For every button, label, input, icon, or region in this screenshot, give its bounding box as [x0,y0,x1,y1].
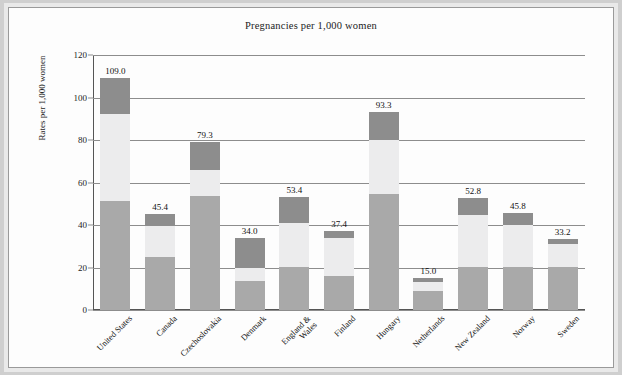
bar-canada[interactable]: 45.4 [145,214,175,310]
bar-segment-segment-top [324,231,354,238]
y-tick-label-100: 100 [74,93,88,103]
bar-value-label: 53.4 [286,185,302,195]
x-tick-label: Czechoslovakia [179,314,223,358]
bar-segment-segment-bottom [145,257,175,310]
bar-segment-segment-middle [235,268,265,282]
bar-value-label: 45.8 [510,201,526,211]
bar-hungary[interactable]: 93.3 [369,112,399,310]
bar-segment-segment-top [503,213,533,226]
bar-value-label: 93.3 [376,100,392,110]
bar-segment-segment-bottom [235,281,265,310]
x-tick-label: Finland [333,314,358,339]
bar-value-label: 45.4 [152,202,168,212]
bar-value-label: 15.0 [421,266,437,276]
screenshot-root: Pregnancies per 1,000 women Rates per 1,… [0,0,622,375]
bar-netherlands[interactable]: 15.0 [413,278,443,310]
gridline-80: 80 [93,140,585,141]
x-tick-label: England & Wales [280,314,319,353]
y-tick-mark-60 [88,182,93,183]
gridline-100: 100 [93,98,585,99]
bar-segment-segment-bottom [190,196,220,310]
bar-segment-segment-middle [145,226,175,257]
bar-segment-segment-middle [548,244,578,267]
y-tick-label-20: 20 [78,263,87,273]
y-tick-mark-120 [88,55,93,56]
bar-segment-segment-middle [413,282,443,291]
bar-segment-segment-bottom [413,291,443,310]
bar-united-states[interactable]: 109.0 [100,78,130,310]
bar-value-label: 109.0 [105,66,125,76]
y-tick-label-120: 120 [74,50,88,60]
bar-segment-segment-bottom [369,194,399,310]
bar-segment-segment-bottom [100,201,130,310]
bar-segment-segment-bottom [458,267,488,310]
bar-denmark[interactable]: 34.0 [235,238,265,310]
bar-segment-segment-top [458,198,488,215]
x-tick-label: Denmark [239,314,268,343]
y-tick-label-40: 40 [78,220,87,230]
gridline-0: 0 [93,310,585,311]
bar-england-wales[interactable]: 53.4 [279,197,309,310]
bar-segment-segment-top [145,214,175,226]
bar-segment-segment-bottom [279,267,309,310]
bar-norway[interactable]: 45.8 [503,213,533,310]
bar-segment-segment-bottom [548,267,578,310]
gridline-120: 120 [93,55,585,56]
y-tick-label-0: 0 [83,305,88,315]
x-tick-label: Sweden [556,314,581,339]
x-tick-label: United States [95,314,134,353]
plot-area: 020406080100120 109.045.479.334.053.437.… [93,55,585,310]
bar-value-label: 33.2 [555,227,571,237]
y-tick-mark-40 [88,225,93,226]
bar-segment-segment-middle [190,170,220,197]
bar-value-label: 79.3 [197,130,213,140]
bar-segment-segment-top [279,197,309,224]
bar-segment-segment-middle [100,114,130,201]
y-tick-mark-0 [88,310,93,311]
y-tick-mark-80 [88,140,93,141]
x-tick-label: Netherlands [411,314,446,349]
y-tick-mark-20 [88,267,93,268]
chart-title: Pregnancies per 1,000 women [9,20,613,31]
y-tick-label-80: 80 [78,135,87,145]
bar-value-label: 34.0 [242,226,258,236]
y-tick-mark-100 [88,97,93,98]
bar-segment-segment-middle [279,223,309,267]
bar-segment-segment-bottom [324,276,354,310]
chart-frame: Pregnancies per 1,000 women Rates per 1,… [8,7,614,368]
bar-segment-segment-middle [458,215,488,267]
bar-segment-segment-middle [369,140,399,194]
bar-new-zealand[interactable]: 52.8 [458,198,488,310]
bar-segment-segment-bottom [503,267,533,310]
bar-value-label: 37.4 [331,219,347,229]
bar-value-label: 52.8 [465,186,481,196]
chart-figure: Pregnancies per 1,000 women Rates per 1,… [9,8,613,367]
bar-segment-segment-middle [503,225,533,266]
bar-segment-segment-top [190,142,220,170]
gridline-60: 60 [93,183,585,184]
bar-segment-segment-middle [324,238,354,277]
bar-czechoslovakia[interactable]: 79.3 [190,142,220,311]
y-tick-label-60: 60 [78,178,87,188]
bar-segment-segment-top [369,112,399,140]
y-axis-label: Rates per 1,000 women [37,38,47,158]
bar-segment-segment-top [100,78,130,113]
x-tick-label: Hungary [375,314,402,341]
bar-segment-segment-top [235,238,265,268]
x-tick-label: Norway [511,314,537,340]
bar-finland[interactable]: 37.4 [324,231,354,310]
x-tick-label: Canada [154,314,178,338]
x-tick-label: New Zealand [453,314,492,353]
bar-sweden[interactable]: 33.2 [548,239,578,310]
